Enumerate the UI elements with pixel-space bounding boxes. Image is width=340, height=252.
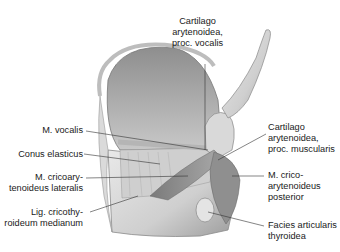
label-m-vocalis: M. vocalis bbox=[42, 125, 83, 136]
label-m-cricoarytenoideus-posterior: M. crico- arytenoideus posterior bbox=[268, 170, 321, 203]
arytenoid-cartilage bbox=[205, 113, 234, 159]
articular-facet bbox=[196, 198, 214, 222]
label-proc-muscularis: Cartilago arytenoidea, proc. muscularis bbox=[268, 122, 335, 155]
label-conus-elasticus: Conus elasticus bbox=[18, 149, 83, 160]
label-m-cricoarytenoideus-lateralis: M. cricoary- tenoideus lateralis bbox=[9, 172, 83, 194]
label-proc-vocalis: Cartilago arytenoidea, proc. vocalis bbox=[172, 16, 223, 49]
epiglottis bbox=[222, 30, 271, 118]
label-facies-articularis: Facies articularis thyroidea bbox=[268, 220, 337, 242]
label-lig-cricothyroideum: Lig. cricothy- roideum medianum bbox=[4, 207, 83, 229]
